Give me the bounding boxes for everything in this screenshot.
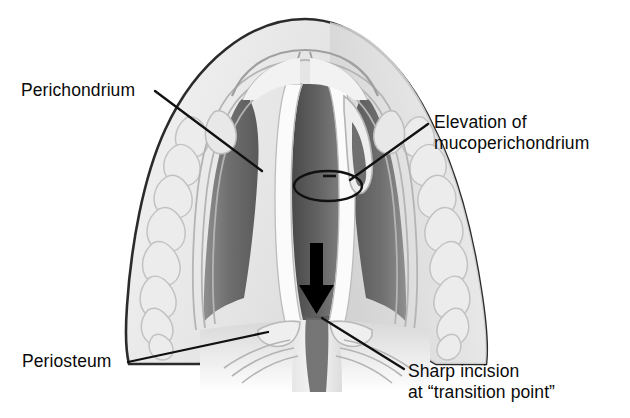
arrow-shaft <box>310 243 323 291</box>
transition-point-dark <box>305 318 328 392</box>
annotation-elevation-of-mucoperichondrium: Elevation ofmucoperichondrium <box>434 112 589 154</box>
annotation-sharp-incision-line-1: Sharp incision <box>408 361 555 382</box>
annotation-perichondrium: Perichondrium <box>21 80 135 101</box>
base-columella-region <box>200 318 430 392</box>
annotation-periosteum: Periosteum <box>22 351 112 372</box>
annotation-elevation-line-1: Elevation of <box>434 112 589 133</box>
annotation-sharp-incision-line-2: at “transition point” <box>408 382 555 403</box>
annotation-elevation-line-2: mucoperichondrium <box>434 133 589 154</box>
annotation-sharp-incision: Sharp incisionat “transition point” <box>408 361 555 403</box>
figure-root: Perichondrium Elevation ofmucoperichondr… <box>0 0 630 418</box>
